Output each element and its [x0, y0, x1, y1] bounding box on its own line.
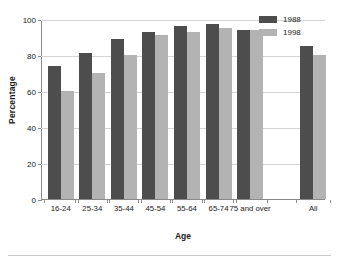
plot-area: 020406080100 [41, 20, 325, 200]
y-axis-title: Percentage [2, 0, 22, 200]
bar-group [237, 19, 263, 199]
bar-1988-65-74 [206, 24, 219, 199]
bar-1988-16-24 [48, 66, 61, 199]
x-tick-mark [172, 200, 173, 203]
bar-1988-55-64 [174, 26, 187, 199]
y-tick-mark [38, 164, 41, 165]
y-tick-mark [38, 128, 41, 129]
bar-group [111, 19, 137, 199]
y-tick-label: 60 [27, 88, 36, 97]
x-tick-mark [204, 200, 205, 203]
bar-1988-All [300, 46, 313, 199]
bar-group [300, 19, 326, 199]
chart-legend: 19881998 [259, 13, 301, 39]
legend-swatch-1998 [259, 29, 277, 36]
bar-1998-25-34 [92, 73, 105, 199]
bar-group [79, 19, 105, 199]
x-tick-mark [330, 200, 331, 203]
legend-swatch-1988 [259, 16, 277, 23]
bar-1988-45-54 [142, 32, 155, 199]
y-axis-line [41, 20, 42, 201]
x-axis-title: Age [41, 231, 325, 241]
bar-1988-25-34 [79, 53, 92, 199]
x-axis-line [41, 199, 325, 200]
legend-item-1998[interactable]: 1998 [259, 26, 301, 39]
x-tick-mark [296, 200, 297, 203]
x-tick-mark [107, 200, 108, 203]
bar-group [206, 19, 232, 199]
x-tick-label: 75 and over [228, 204, 272, 214]
y-axis-title-text: Percentage [7, 76, 17, 124]
bar-1998-55-64 [187, 32, 200, 199]
bar-1998-45-54 [155, 35, 168, 199]
legend-item-1988[interactable]: 1988 [259, 13, 301, 26]
bar-1998-All [313, 55, 326, 199]
y-tick-label: 80 [27, 52, 36, 61]
y-tick-mark [38, 200, 41, 201]
y-tick-label: 100 [23, 16, 36, 25]
x-tick-mark [44, 200, 45, 203]
x-tick-mark [202, 200, 203, 203]
y-tick-label: 20 [27, 160, 36, 169]
x-tick-mark [233, 200, 234, 203]
bar-1998-65-74 [219, 28, 232, 199]
bar-1988-35-44 [111, 39, 124, 199]
y-tick-mark [38, 56, 41, 57]
bar-1998-75-and-over [250, 30, 263, 199]
x-tick-mark [138, 200, 139, 203]
x-tick-mark [75, 200, 76, 203]
bar-1998-16-24 [61, 91, 74, 199]
x-tick-mark [170, 200, 171, 203]
x-tick-label: All [291, 204, 335, 214]
bar-1998-35-44 [124, 55, 137, 199]
legend-label: 1988 [283, 15, 301, 24]
y-tick-label: 40 [27, 124, 36, 133]
bar-group [142, 19, 168, 199]
y-tick-mark [38, 92, 41, 93]
y-tick-label: 0 [32, 196, 36, 205]
x-tick-mark [141, 200, 142, 203]
legend-label: 1998 [283, 28, 301, 37]
bar-chart-figure: Percentage 020406080100 16-2425-3435-444… [0, 0, 339, 264]
bar-group [48, 19, 74, 199]
footer-divider [8, 255, 331, 256]
bar-group [174, 19, 200, 199]
x-tick-mark [267, 200, 268, 203]
y-tick-mark [38, 20, 41, 21]
x-tick-mark [109, 200, 110, 203]
bar-1988-75-and-over [237, 30, 250, 199]
x-tick-mark [78, 200, 79, 203]
x-tick-mark [236, 200, 237, 203]
